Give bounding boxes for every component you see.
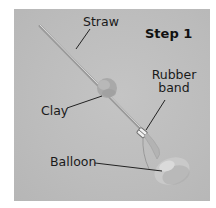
- clay-label: Clay: [41, 104, 68, 117]
- rubber-band-leader-line: [146, 100, 165, 130]
- step-title: Step 1: [145, 26, 192, 41]
- clay-shape: [97, 78, 117, 98]
- rubber-band-label: Rubber band: [144, 68, 204, 94]
- balloon-label: Balloon: [50, 155, 96, 168]
- clay-leader-line: [67, 96, 102, 108]
- balloon-leader-line: [95, 163, 162, 171]
- rubber-band-label-line2: band: [144, 81, 204, 94]
- step-photo: Straw Clay Rubber band Balloon Step 1: [14, 9, 210, 201]
- straw-leader-line: [76, 29, 90, 49]
- straw-label: Straw: [83, 15, 119, 28]
